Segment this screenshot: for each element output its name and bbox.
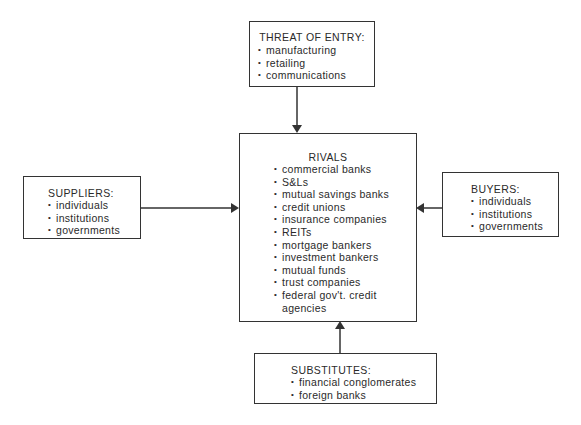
list-item: governments bbox=[471, 220, 543, 233]
suppliers-title: SUPPLIERS: bbox=[48, 187, 114, 199]
substitutes-title: SUBSTITUTES: bbox=[291, 364, 371, 376]
rivals-list: commercial banks S&Ls mutual savings ban… bbox=[274, 163, 414, 314]
suppliers-list: individuals institutions governments bbox=[48, 199, 120, 237]
list-item: federal gov't. credit agencies bbox=[274, 289, 414, 314]
list-item: retailing bbox=[258, 57, 346, 70]
list-item: financial conglomerates bbox=[291, 376, 416, 389]
list-item: trust companies bbox=[274, 276, 414, 289]
threat-of-entry-box: THREAT OF ENTRY: manufacturing retailing… bbox=[249, 21, 375, 87]
list-item: investment bankers bbox=[274, 251, 414, 264]
substitutes-list: financial conglomerates foreign banks bbox=[291, 376, 416, 401]
buyers-list: individuals institutions governments bbox=[471, 195, 543, 233]
list-item: mortgage bankers bbox=[274, 239, 414, 252]
list-item: governments bbox=[48, 224, 120, 237]
buyers-box: BUYERS: individuals institutions governm… bbox=[442, 172, 559, 237]
list-item: individuals bbox=[48, 199, 120, 212]
threat-title: THREAT OF ENTRY: bbox=[250, 31, 374, 43]
list-item: foreign banks bbox=[291, 389, 416, 402]
rivals-title: RIVALS bbox=[240, 151, 416, 163]
list-item: manufacturing bbox=[258, 44, 346, 57]
rivals-box: RIVALS commercial banks S&Ls mutual savi… bbox=[239, 133, 417, 322]
list-item: commercial banks bbox=[274, 163, 414, 176]
list-item: individuals bbox=[471, 195, 543, 208]
list-item: mutual funds bbox=[274, 264, 414, 277]
list-item: credit unions bbox=[274, 201, 414, 214]
list-item: REITs bbox=[274, 226, 414, 239]
suppliers-box: SUPPLIERS: individuals institutions gove… bbox=[23, 176, 141, 239]
list-item: S&Ls bbox=[274, 176, 414, 189]
list-item: institutions bbox=[471, 208, 543, 221]
list-item: mutual savings banks bbox=[274, 188, 414, 201]
list-item: institutions bbox=[48, 212, 120, 225]
buyers-title: BUYERS: bbox=[471, 183, 520, 195]
threat-list: manufacturing retailing communications bbox=[258, 44, 346, 82]
list-item: insurance companies bbox=[274, 213, 414, 226]
list-item: communications bbox=[258, 69, 346, 82]
substitutes-box: SUBSTITUTES: financial conglomerates for… bbox=[254, 353, 437, 404]
